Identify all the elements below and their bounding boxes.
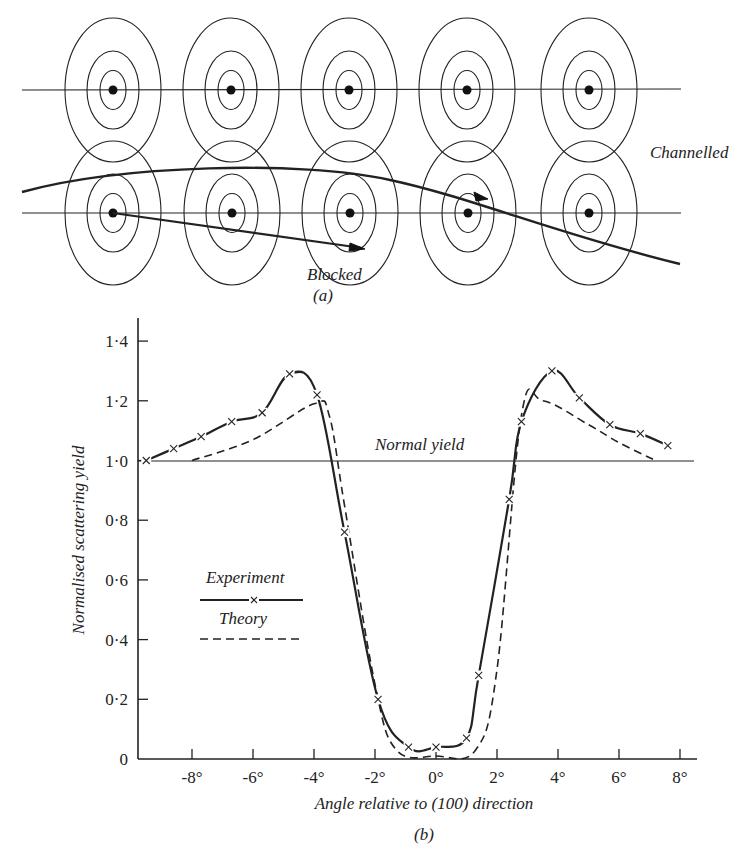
y-tick-label: 1·4 xyxy=(105,332,128,351)
x-marker-icon xyxy=(257,408,267,418)
x-marker-icon xyxy=(285,369,295,379)
experiment-markers xyxy=(141,366,673,752)
x-marker-icon xyxy=(663,441,673,451)
atom-icon xyxy=(419,18,515,162)
channelled-label: Channelled xyxy=(650,143,729,162)
x-marker-icon xyxy=(574,393,584,403)
panel-a-caption: (a) xyxy=(313,286,333,305)
panel-b-caption: (b) xyxy=(414,825,434,844)
normal-yield-label: Normal yield xyxy=(374,435,465,454)
y-tick-label: 0·8 xyxy=(105,511,128,530)
x-marker-icon xyxy=(340,527,350,537)
legend-x-marker-icon xyxy=(251,597,257,603)
y-tick-label: 0 xyxy=(120,750,129,769)
legend-experiment-label: Experiment xyxy=(205,568,286,587)
channelling-figure: Channelled Blocked (a) 00·20·40·60·81·01… xyxy=(0,0,746,868)
x-marker-icon xyxy=(605,420,615,430)
x-marker-icon xyxy=(462,733,472,743)
y-tick-label: 0·6 xyxy=(105,571,128,590)
x-tick-label: 8° xyxy=(672,768,687,787)
y-tick-label: 0·2 xyxy=(105,690,128,709)
y-tick-label: 1·2 xyxy=(105,392,128,411)
x-axis-ticks: -8°-6°-4°-2°0°2°4°6°8° xyxy=(182,749,688,787)
x-marker-icon xyxy=(504,494,514,504)
legend-theory-label: Theory xyxy=(219,609,268,628)
legend: Experiment Theory xyxy=(200,568,303,639)
x-tick-label: 0° xyxy=(428,768,443,787)
y-axis-label: Normalised scattering yield xyxy=(69,445,88,635)
x-marker-icon xyxy=(516,417,526,427)
y-tick-label: 0·4 xyxy=(105,631,128,650)
x-marker-icon xyxy=(312,390,322,400)
x-marker-icon xyxy=(196,432,206,442)
y-tick-label: 1·0 xyxy=(105,452,128,471)
x-marker-icon xyxy=(373,694,383,704)
x-marker-icon xyxy=(227,417,237,427)
chart-axes xyxy=(138,318,697,759)
x-marker-icon xyxy=(169,444,179,454)
x-tick-label: -4° xyxy=(304,768,325,787)
x-marker-icon xyxy=(404,742,414,752)
x-tick-label: -8° xyxy=(182,768,203,787)
x-marker-icon xyxy=(141,456,151,466)
x-tick-label: -6° xyxy=(243,768,264,787)
arrowhead-icon xyxy=(474,192,488,201)
x-marker-icon xyxy=(431,742,441,752)
x-marker-icon xyxy=(547,366,557,376)
x-axis-label: Angle relative to (100) direction xyxy=(314,794,534,813)
atom-icon xyxy=(541,18,637,162)
x-tick-label: -2° xyxy=(365,768,386,787)
x-marker-icon xyxy=(635,429,645,439)
x-tick-label: 2° xyxy=(489,768,504,787)
x-tick-label: 4° xyxy=(550,768,565,787)
experiment-curve xyxy=(146,370,668,751)
x-tick-label: 6° xyxy=(611,768,626,787)
panel-a-lattice-diagram xyxy=(22,18,681,285)
y-axis-ticks: 00·20·40·60·81·01·21·4 xyxy=(105,332,148,769)
blocked-label: Blocked xyxy=(307,265,362,284)
x-marker-icon xyxy=(474,670,484,680)
